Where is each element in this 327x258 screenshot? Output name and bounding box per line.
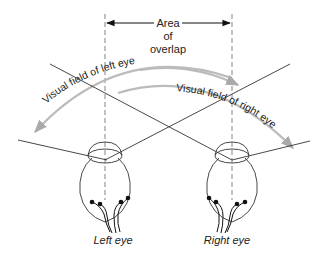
overlap-label-line3: overlap — [150, 43, 186, 55]
overlap-label-line2: of — [163, 30, 173, 42]
left-eye-label: Left eye — [93, 234, 132, 246]
right-field-label: Visual field of right eye — [176, 81, 279, 130]
right-eye-label: Right eye — [204, 234, 250, 246]
binocular-vision-diagram: Area of overlap Visual field of left eye… — [0, 0, 327, 258]
overlap-label-line1: Area — [156, 17, 180, 29]
left-field-label: Visual field of left eye — [40, 54, 136, 106]
left-field-arc — [35, 67, 232, 132]
